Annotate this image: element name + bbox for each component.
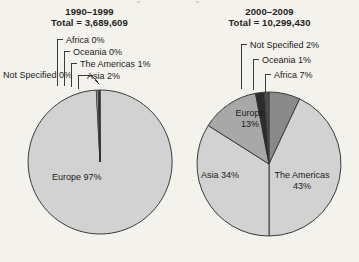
left-pie-svg	[24, 86, 176, 238]
right-label-oceania: Oceania 1%	[262, 55, 311, 66]
left-label-oceania: Oceania 0%	[73, 47, 122, 58]
left-label-not-specified: Not Specified 0%	[3, 70, 72, 81]
right-label-europe-name: Europe	[235, 108, 264, 118]
left-pie-chart: Europe 97%	[24, 86, 176, 238]
right-label-americas-name: The Americas	[274, 170, 329, 180]
left-label-europe: Europe 97%	[52, 172, 102, 183]
right-label-asia: Asia 34%	[201, 170, 239, 181]
right-chart-total-label: Total = 10,299,430	[180, 17, 359, 29]
right-label-not-specified: Not Specified 2%	[250, 40, 319, 51]
right-label-europe-pct: 13%	[241, 119, 259, 129]
right-label-africa: Africa 7%	[274, 70, 313, 81]
chart-panel-right: 2000–2009 Total = 10,299,430 Not Specifi…	[180, 0, 359, 262]
right-label-europe: Europe 13%	[221, 108, 279, 130]
pie-chart-figure: 1990–1999 Total = 3,689,609 Africa 0% Oc…	[0, 0, 359, 262]
left-label-americas: The Americas 1%	[80, 59, 151, 70]
left-chart-total-label: Total = 3,689,609	[0, 17, 179, 29]
right-pie-chart: Europe 13% Asia 34% The Americas 43%	[193, 88, 345, 240]
right-chart-period-title: 2000–2009	[180, 6, 359, 18]
right-label-americas: The Americas 43%	[269, 170, 335, 192]
left-chart-period-title: 1990–1999	[0, 6, 179, 18]
chart-panel-left: 1990–1999 Total = 3,689,609 Africa 0% Oc…	[0, 0, 179, 262]
right-label-americas-pct: 43%	[293, 181, 311, 191]
left-label-africa: Africa 0%	[66, 35, 105, 46]
left-label-asia: Asia 2%	[87, 71, 120, 82]
